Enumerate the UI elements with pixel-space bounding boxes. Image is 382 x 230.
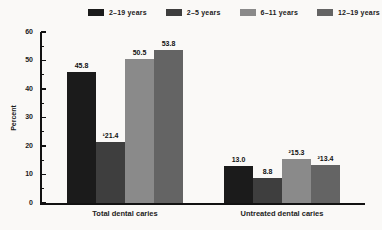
y-tick-label: 60 bbox=[0, 28, 33, 35]
y-minor-tick bbox=[41, 188, 44, 189]
y-minor-tick bbox=[41, 103, 44, 104]
bar bbox=[154, 50, 183, 203]
y-minor-tick bbox=[41, 160, 44, 161]
bar-value-label: 13.0 bbox=[216, 156, 261, 163]
y-major-tick bbox=[41, 145, 46, 146]
y-minor-tick bbox=[41, 131, 44, 132]
x-axis-line bbox=[40, 203, 365, 205]
plot-area: Percent 010203040506045.8¹21.450.553.8To… bbox=[0, 0, 382, 230]
x-category-label: Total dental caries bbox=[67, 209, 183, 218]
y-major-tick bbox=[41, 202, 46, 203]
y-tick-label: 0 bbox=[0, 199, 33, 206]
y-major-tick bbox=[41, 174, 46, 175]
bar bbox=[311, 165, 340, 203]
bar-value-label: 45.8 bbox=[59, 62, 104, 69]
bar bbox=[125, 59, 154, 203]
y-minor-tick bbox=[41, 46, 44, 47]
y-tick-label: 10 bbox=[0, 170, 33, 177]
y-tick-label: 50 bbox=[0, 56, 33, 63]
y-minor-tick bbox=[41, 74, 44, 75]
bar-value-label: 53.8 bbox=[146, 40, 191, 47]
y-major-tick bbox=[41, 88, 46, 89]
bar-value-label: ²13.4 bbox=[303, 155, 348, 162]
y-tick-label: 20 bbox=[0, 142, 33, 149]
y-major-tick bbox=[41, 31, 46, 32]
x-category-label: Untreated dental caries bbox=[224, 209, 340, 218]
bar bbox=[96, 142, 125, 203]
bar bbox=[253, 178, 282, 203]
y-major-tick bbox=[41, 117, 46, 118]
dental-caries-bar-chart: 2–19 years2–5 years6–11 years12–19 years… bbox=[0, 0, 382, 230]
y-tick-label: 30 bbox=[0, 113, 33, 120]
y-major-tick bbox=[41, 60, 46, 61]
bar bbox=[282, 159, 311, 203]
y-tick-label: 40 bbox=[0, 85, 33, 92]
